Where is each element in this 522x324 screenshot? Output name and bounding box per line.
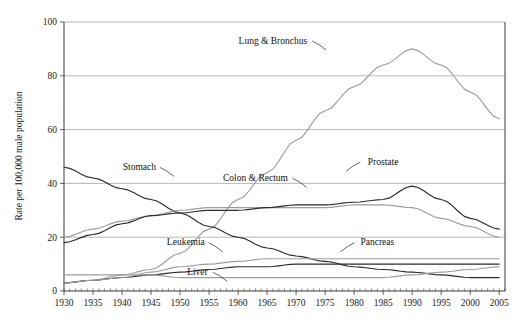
x-tick-label: 1960 — [229, 298, 248, 308]
series-label-liver: Liver — [187, 267, 208, 277]
leader-line-stomach — [160, 167, 174, 176]
y-tick-label: 20 — [48, 233, 58, 243]
leader-line-liver — [213, 272, 227, 281]
leader-line-prostate — [346, 162, 360, 171]
leader-line-lung-bronchus — [312, 41, 326, 50]
x-tick-label: 1950 — [171, 298, 190, 308]
x-tick-label: 1955 — [200, 298, 219, 308]
y-tick-label: 60 — [48, 125, 58, 135]
x-tick-label: 1930 — [55, 298, 74, 308]
y-tick-label: 40 — [48, 179, 58, 189]
series-label-colon-rectum: Colon & Rectum — [223, 173, 289, 183]
x-tick-label: 1995 — [432, 298, 451, 308]
x-tick-label: 2000 — [461, 298, 480, 308]
leader-line-pancreas — [341, 243, 355, 252]
y-tick-label: 100 — [43, 17, 58, 27]
series-line-liver — [64, 267, 499, 278]
leader-line-leukemia — [209, 243, 223, 252]
x-tick-label: 1990 — [403, 298, 422, 308]
series-label-pancreas: Pancreas — [360, 237, 394, 247]
x-axis-ticks: 1930193519401945195019551960196519701975… — [55, 291, 509, 308]
series-label-lung-bronchus: Lung & Bronchus — [239, 36, 308, 46]
x-tick-label: 1985 — [374, 298, 393, 308]
series-line-colon-rectum — [64, 205, 499, 237]
axes — [64, 22, 505, 291]
x-tick-label: 1940 — [113, 298, 132, 308]
series-line-prostate — [64, 186, 499, 242]
y-axis-title: Rate per 100,000 male population — [14, 91, 24, 220]
series-label-prostate: Prostate — [368, 157, 399, 167]
series-label-leukemia: Leukemia — [167, 237, 206, 247]
y-tick-label: 80 — [48, 71, 58, 81]
y-tick-label: 0 — [52, 286, 57, 296]
x-tick-label: 1980 — [345, 298, 364, 308]
leader-line-colon-rectum — [292, 178, 306, 187]
series-labels: Lung & BronchusStomachColon & RectumPros… — [123, 36, 399, 277]
series-line-pancreas — [64, 259, 499, 283]
x-tick-label: 1935 — [84, 298, 103, 308]
x-tick-label: 1970 — [287, 298, 306, 308]
chart-svg: 020406080100 193019351940194519501955196… — [0, 0, 522, 324]
x-tick-label: 1975 — [316, 298, 335, 308]
cancer-death-rate-line-chart: 020406080100 193019351940194519501955196… — [0, 0, 522, 324]
x-tick-label: 1965 — [258, 298, 277, 308]
gridlines — [64, 22, 505, 237]
x-tick-label: 1945 — [142, 298, 161, 308]
x-tick-label: 2005 — [490, 298, 509, 308]
series-label-stomach: Stomach — [123, 162, 156, 172]
y-axis-ticks: 020406080100 — [43, 17, 64, 296]
